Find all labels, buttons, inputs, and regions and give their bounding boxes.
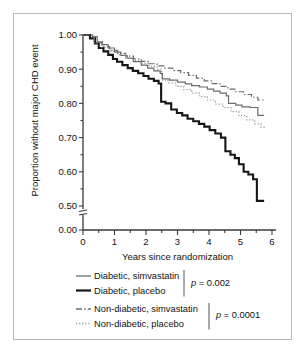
y-tick-label: 0.00 [59, 224, 78, 235]
x-tick-label: 0 [80, 236, 85, 247]
p-value-0: p = 0.002 [190, 278, 230, 288]
legend-label-2: Non-diabetic, simvastatin [94, 304, 198, 314]
y-tick-label: 0.80 [59, 98, 78, 109]
series-line-3 [83, 35, 264, 128]
y-tick-label: 1.00 [59, 29, 78, 40]
x-tick-label: 6 [269, 236, 274, 247]
x-tick-label: 4 [206, 236, 211, 247]
y-axis-title: Proportion without major CHD event [29, 44, 40, 196]
figure-panel: 1.000.900.800.700.600.500.000123456Years… [13, 13, 292, 340]
x-tick-label: 3 [175, 236, 180, 247]
p-value-1: p = 0.0001 [215, 310, 260, 320]
legend-label-3: Non-diabetic, placebo [94, 319, 184, 329]
y-tick-label: 0.50 [59, 200, 78, 211]
legend-label-0: Diabetic, simvastatin [94, 271, 179, 281]
x-tick-label: 1 [112, 236, 117, 247]
kaplan-meier-chart: 1.000.900.800.700.600.500.000123456Years… [14, 14, 293, 341]
axis-break-mark-upper [79, 210, 87, 212]
legend-label-1: Diabetic, placebo [94, 286, 165, 296]
x-tick-label: 2 [143, 236, 148, 247]
y-tick-label: 0.60 [59, 166, 78, 177]
y-tick-label: 0.90 [59, 64, 78, 75]
x-tick-label: 5 [238, 236, 243, 247]
series-line-1 [83, 35, 264, 201]
x-axis-title: Years since randomization [122, 251, 233, 262]
series-line-2 [83, 35, 264, 101]
y-tick-label: 0.70 [59, 132, 78, 143]
axis-break-mark-lower [79, 214, 87, 216]
